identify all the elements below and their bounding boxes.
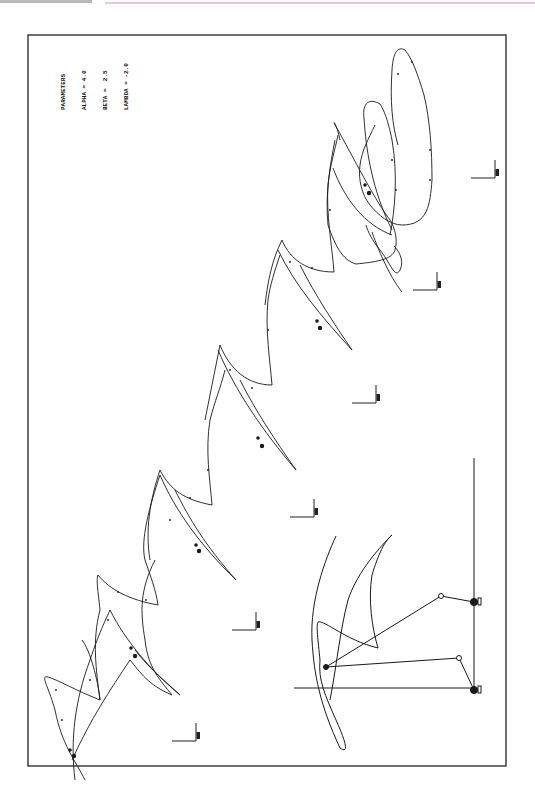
linkage-coupler-curve [312,535,392,750]
crank-joint-lower [457,656,462,661]
coupler-point [324,665,329,670]
param-lambda: LAMBDA = -2.0 [123,63,130,110]
ground-pivot-lower [470,686,477,693]
link-upper-crank [441,596,474,602]
crank-joint-upper [439,594,444,599]
parameters-legend: PARAMETERS ALPHA = 4.0 BETA = 2.5 LAMBDA… [46,48,86,108]
parameters-title: PARAMETERS [60,63,67,110]
param-alpha: ALPHA = 4.0 [81,63,88,110]
param-beta: BETA = 2.5 [102,63,109,110]
mechanism-diagram [0,0,535,803]
linkage-mechanism [294,458,481,750]
ground-support-icons [172,160,499,741]
trace-markers [55,61,431,758]
link-lower [326,658,459,667]
plot-frame [28,35,506,766]
ground-pivot-upper [470,598,477,605]
link-lower-crank [459,658,474,690]
coupler-curves [45,49,432,780]
link-upper [326,596,441,667]
